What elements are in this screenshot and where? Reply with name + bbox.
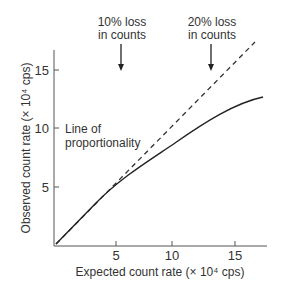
x-axis-label: Expected count rate (× 10⁴ cps) [76, 265, 245, 279]
annotation-10-loss-line2: in counts [98, 28, 146, 42]
annotation-20-loss-line1: 20% loss [188, 15, 237, 29]
arrowhead-20-loss-icon [208, 64, 214, 71]
proportionality-label-line1: Line of [65, 122, 102, 136]
annotation-20-loss-line2: in counts [188, 28, 236, 42]
annotation-10-loss-line1: 10% loss [98, 15, 147, 29]
x-tick-label-5: 5 [112, 248, 119, 263]
y-axis-label: Observed count rate (× 10⁴ cps) [19, 63, 33, 234]
x-tick-label-10: 10 [165, 248, 179, 263]
y-tick-label-10: 10 [35, 121, 49, 136]
y-tick-label-5: 5 [42, 180, 49, 195]
count-rate-chart: 15 10 5 5 10 15 Expected count rate (× 1… [0, 0, 286, 288]
y-tick-label-15: 15 [35, 63, 49, 78]
x-tick-label-15: 15 [228, 248, 242, 263]
arrowhead-10-loss-icon [118, 64, 124, 71]
observed-count-curve [56, 97, 263, 244]
proportionality-label-line2: proportionality [65, 136, 140, 150]
